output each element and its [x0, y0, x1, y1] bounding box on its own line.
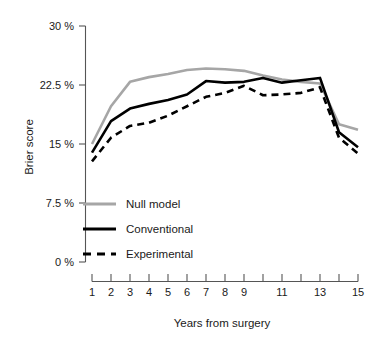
y-axis-title: Brier score: [23, 119, 35, 175]
x-tick-label-4: 4: [146, 286, 152, 298]
y-tick-label-15: 15 %: [49, 138, 74, 150]
x-tick-label-13: 13: [314, 286, 326, 298]
line-chart: 30 % 22.5 % 15 % 7.5 % 0 % Brier score 1…: [0, 0, 387, 349]
x-axis-ticks: [92, 274, 358, 282]
legend-label-null-model: Null model: [126, 198, 180, 210]
x-axis-title: Years from surgery: [174, 317, 271, 329]
x-tick-label-3: 3: [127, 286, 133, 298]
x-tick-label-6: 6: [184, 286, 190, 298]
y-tick-label-0: 0 %: [55, 256, 74, 268]
x-tick-label-2: 2: [108, 286, 114, 298]
y-tick-label-30: 30 %: [49, 20, 74, 32]
legend-label-conventional: Conventional: [126, 223, 193, 235]
x-tick-label-8: 8: [222, 286, 228, 298]
series-line-null-model: [92, 68, 358, 144]
x-tick-label-11: 11: [276, 286, 287, 298]
x-axis-tick-labels: 123456789111315: [89, 286, 364, 298]
x-tick-label-7: 7: [203, 286, 209, 298]
series-group: [92, 68, 358, 161]
x-tick-label-1: 1: [89, 286, 95, 298]
y-tick-label-7-5: 7.5 %: [46, 197, 74, 209]
series-line-experimental: [92, 86, 358, 162]
x-tick-label-9: 9: [241, 286, 247, 298]
x-tick-label-15: 15: [352, 286, 364, 298]
series-line-conventional: [92, 78, 358, 153]
chart-figure: 30 % 22.5 % 15 % 7.5 % 0 % Brier score 1…: [0, 0, 387, 349]
legend-label-experimental: Experimental: [126, 248, 193, 260]
chart-legend: Null modelConventionalExperimental: [83, 198, 193, 260]
y-tick-label-22-5: 22.5 %: [40, 79, 74, 91]
x-tick-label-5: 5: [165, 286, 171, 298]
